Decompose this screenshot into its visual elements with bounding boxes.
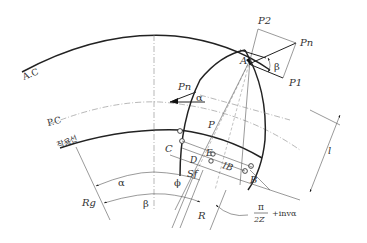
pn-box-top bbox=[258, 29, 296, 43]
label-r: R bbox=[197, 210, 206, 221]
label-line-of-action: 작용선 bbox=[55, 133, 78, 150]
label-e: E bbox=[205, 148, 213, 158]
label-p1: P1 bbox=[288, 77, 302, 88]
formula-arc bbox=[216, 205, 248, 216]
rg-radial-line bbox=[76, 147, 110, 220]
label-p2: P2 bbox=[257, 15, 271, 26]
label-d: D bbox=[189, 155, 197, 165]
l-dimension bbox=[310, 115, 340, 192]
gear-tooth-diagram: A.C P.C 작용선 P2 Pn P1 β A Pn α P C E D IB… bbox=[0, 0, 367, 243]
construction-line bbox=[200, 95, 290, 120]
label-rg: Rg bbox=[81, 197, 96, 208]
alpha-phi-arc bbox=[96, 172, 200, 186]
pn-vector bbox=[249, 43, 296, 64]
label-sf: Sf bbox=[187, 168, 200, 179]
label-b: B bbox=[249, 174, 257, 185]
label-ac: A.C bbox=[20, 66, 40, 82]
p2-line bbox=[249, 29, 258, 64]
formula-numerator: π bbox=[258, 202, 264, 212]
point-marker bbox=[178, 129, 183, 134]
l-ext-top bbox=[310, 110, 340, 125]
formula-denominator: 2Z bbox=[253, 215, 265, 224]
label-pn-left: Pn bbox=[177, 81, 191, 92]
label-l: l bbox=[328, 145, 331, 156]
label-beta-bottom: β bbox=[143, 198, 149, 209]
label-pn-top: Pn bbox=[299, 37, 313, 48]
pitch-circle bbox=[50, 102, 300, 150]
formula-suffix: +invα bbox=[272, 209, 297, 218]
label-alpha-bottom: α bbox=[118, 177, 125, 188]
label-beta-top: β bbox=[274, 61, 280, 72]
base-circle bbox=[60, 130, 262, 158]
label-alpha-top: α bbox=[196, 92, 203, 103]
label-a: A bbox=[239, 55, 247, 66]
r-line3 bbox=[210, 190, 226, 230]
label-pc: P.C bbox=[46, 115, 62, 128]
tooth-profile-right bbox=[245, 50, 265, 190]
label-phi: ϕ bbox=[174, 177, 181, 188]
label-p: P bbox=[207, 119, 215, 130]
label-c: C bbox=[165, 143, 173, 154]
